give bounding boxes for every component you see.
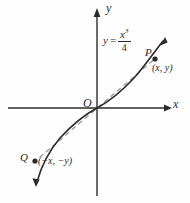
point-marker-p bbox=[152, 56, 157, 61]
curve-arrowhead-lower bbox=[32, 178, 39, 187]
equation-numerator: x3 bbox=[118, 28, 130, 41]
equation-denominator: 4 bbox=[120, 42, 129, 53]
equation-label: y = x3 4 bbox=[103, 28, 131, 53]
y-axis-label: y bbox=[106, 2, 111, 14]
y-axis bbox=[94, 8, 101, 196]
graph-canvas bbox=[0, 0, 190, 203]
point-label-p: P bbox=[145, 47, 152, 58]
origin-label: O bbox=[83, 97, 92, 109]
point-marker-q bbox=[32, 158, 37, 163]
x-axis-arrowhead bbox=[164, 105, 172, 112]
point-coords-q: (−x, −y) bbox=[38, 156, 72, 166]
equation-lhs: y bbox=[103, 35, 108, 46]
odd-function-symmetry-figure: y x O y = x3 4 P (x, y) Q (−x, −y) bbox=[0, 0, 190, 203]
equation-relation: = bbox=[110, 35, 116, 46]
equation-fraction: x3 4 bbox=[118, 28, 130, 53]
point-label-q: Q bbox=[20, 152, 28, 163]
y-axis-arrowhead bbox=[94, 8, 101, 17]
equation-numerator-exponent: 3 bbox=[125, 27, 129, 35]
x-axis-label: x bbox=[173, 98, 178, 110]
point-coords-p: (x, y) bbox=[152, 63, 173, 73]
curve-arrowhead-upper bbox=[160, 37, 167, 46]
